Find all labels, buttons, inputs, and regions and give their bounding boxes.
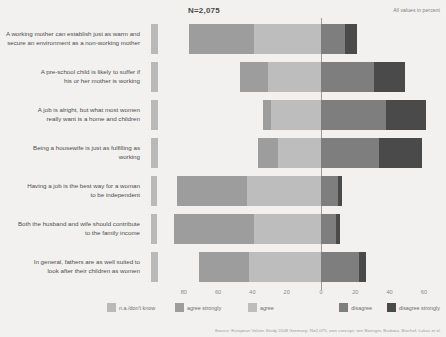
bar-stack	[0, 138, 446, 168]
bar-stack	[0, 176, 446, 206]
bar-segment-disagree-strongly	[374, 62, 405, 92]
bar-segment-disagree	[321, 100, 386, 130]
plot-area: A working mother can establish just as w…	[0, 18, 446, 290]
bar-segment-agree-strongly	[240, 62, 267, 92]
legend-swatch	[175, 303, 184, 312]
axis-tick-label: 80	[181, 289, 187, 295]
axis-tick-label: 40	[249, 289, 255, 295]
chart-container: N=2,075 All values in percent A working …	[0, 0, 446, 337]
bar-segment-agree	[247, 176, 321, 206]
unit-note-label: All values in percent	[393, 7, 440, 13]
bar-stack	[0, 214, 446, 244]
legend-swatch	[248, 303, 257, 312]
chart-row: In general, fathers are as well suited t…	[0, 252, 446, 282]
bar-segment-agree-strongly	[263, 100, 272, 130]
bar-segment-disagree	[321, 176, 338, 206]
legend-label: disagree strongly	[399, 305, 440, 311]
chart-row: A working mother can establish just as w…	[0, 24, 446, 54]
axis-tick-label: 20	[352, 289, 358, 295]
chart-row: A job is alright, but what most womenrea…	[0, 100, 446, 130]
axis-tick-label: 60	[215, 289, 221, 295]
legend-label: n.a./don't know	[119, 305, 155, 311]
bar-segment-agree-strongly	[177, 176, 247, 206]
legend-swatch	[107, 303, 116, 312]
bar-segment-agree	[254, 214, 321, 244]
bar-segment-disagree	[321, 24, 345, 54]
legend-item: disagree	[339, 303, 372, 312]
legend-label: agree strongly	[187, 305, 221, 311]
bar-segment-disagree-strongly	[338, 176, 341, 206]
bar-segment-agree	[254, 24, 321, 54]
bar-segment-agree	[268, 62, 321, 92]
bar-segment-agree-strongly	[199, 252, 249, 282]
chart-row: Having a job is the best way for a woman…	[0, 176, 446, 206]
bar-segment-disagree	[321, 252, 359, 282]
bar-stack	[0, 252, 446, 282]
bar-segment-disagree	[321, 138, 379, 168]
bar-segment-disagree	[321, 62, 374, 92]
x-axis: 806040200204060	[0, 289, 446, 301]
bar-stack	[0, 100, 446, 130]
chart-row: Both the husband and wife should contrib…	[0, 214, 446, 244]
chart-row: A pre-school child is likely to suffer i…	[0, 62, 446, 92]
chart-row: Being a housewife is just as fulfilling …	[0, 138, 446, 168]
axis-tick-label: 20	[284, 289, 290, 295]
bar-segment-agree-strongly	[174, 214, 255, 244]
legend-label: agree	[260, 305, 274, 311]
legend-item: agree	[248, 303, 274, 312]
legend-swatch	[339, 303, 348, 312]
source-note: Source: European Values Study 2008 Germa…	[0, 328, 441, 333]
chart-legend: n.a./don't knowagree stronglyagreedisagr…	[0, 303, 446, 317]
bar-segment-disagree-strongly	[336, 214, 339, 244]
bar-stack	[0, 24, 446, 54]
legend-item: n.a./don't know	[107, 303, 155, 312]
bar-segment-disagree-strongly	[379, 138, 422, 168]
axis-tick-label: 0	[319, 289, 322, 295]
sample-size-label: N=2,075	[188, 6, 220, 15]
bar-stack	[0, 62, 446, 92]
legend-label: disagree	[351, 305, 372, 311]
bar-segment-agree	[278, 138, 321, 168]
bar-segment-disagree	[321, 214, 336, 244]
bar-segment-agree	[249, 252, 321, 282]
bar-segment-disagree-strongly	[386, 100, 425, 130]
legend-item: disagree strongly	[387, 303, 440, 312]
legend-item: agree strongly	[175, 303, 221, 312]
bar-segment-agree-strongly	[189, 24, 254, 54]
bar-segment-disagree-strongly	[345, 24, 357, 54]
bar-segment-disagree-strongly	[359, 252, 366, 282]
bar-segment-agree	[271, 100, 321, 130]
axis-tick-label: 40	[386, 289, 392, 295]
axis-tick-label: 60	[421, 289, 427, 295]
bar-segment-agree-strongly	[258, 138, 279, 168]
legend-swatch	[387, 303, 396, 312]
